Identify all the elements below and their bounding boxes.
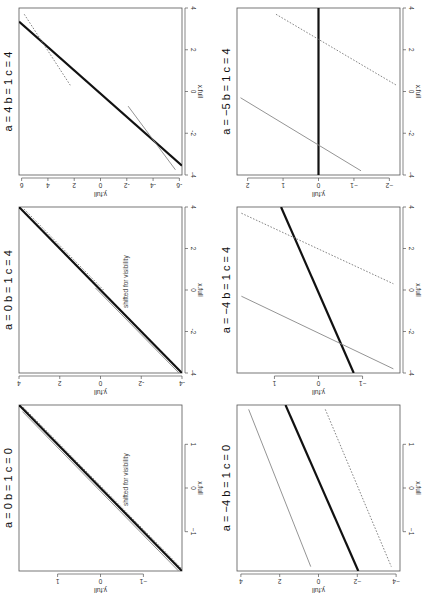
y-tick-label: 1 xyxy=(272,380,276,387)
x-tick-label: 2 xyxy=(408,247,415,251)
x-axis-label: x.full xyxy=(415,481,422,495)
series-line-thin xyxy=(128,106,175,170)
x-tick-label: -4 xyxy=(408,172,415,178)
x-tick-label: -2 xyxy=(408,329,415,335)
y-axis-label: y.full xyxy=(94,388,107,396)
series-line-thick xyxy=(19,207,182,373)
x-axis-label: x.full xyxy=(415,85,422,99)
series-line-dotted xyxy=(276,14,396,85)
x-axis-label: x.full xyxy=(415,283,422,297)
y-axis-label: y.full xyxy=(94,586,107,594)
y-tick-label: 2 xyxy=(58,380,62,387)
series-line-thin xyxy=(241,98,361,171)
x-tick-label: 0 xyxy=(190,288,197,292)
x-tick-label: -4 xyxy=(190,172,197,178)
x-tick-label: -2 xyxy=(190,130,197,136)
x-tick-label: −1 xyxy=(190,528,197,536)
x-tick-label: -4 xyxy=(190,370,197,376)
x-tick-label: -2 xyxy=(190,329,197,335)
y-tick-label: 0 xyxy=(316,182,320,189)
panel-6: −4−2024y.full−101x.fulla = −4 b = 1 c = … xyxy=(220,405,422,594)
x-axis-label: x.full xyxy=(197,481,204,495)
series-line-thick xyxy=(19,22,182,166)
y-tick-label: 0 xyxy=(316,380,320,387)
series-line-thin xyxy=(249,409,311,566)
y-tick-label: 4 xyxy=(17,380,21,387)
y-axis-label: y.full xyxy=(312,190,325,198)
y-axis-label: y.full xyxy=(312,388,325,396)
y-tick-label: 4 xyxy=(46,182,50,189)
x-axis-label: x.full xyxy=(197,85,204,99)
x-tick-label: 2 xyxy=(408,48,415,52)
x-tick-label: 0 xyxy=(408,90,415,94)
y-tick-label: −1 xyxy=(358,380,366,387)
x-tick-label: 1 xyxy=(408,443,415,447)
y-tick-label: -4 xyxy=(150,182,156,189)
y-tick-label: -2 xyxy=(124,182,130,189)
series-line-thick xyxy=(19,405,182,571)
x-tick-label: 2 xyxy=(190,247,197,251)
x-tick-label: 2 xyxy=(190,48,197,52)
x-tick-label: 0 xyxy=(408,288,415,292)
x-tick-label: −1 xyxy=(408,528,415,536)
series-line-thin xyxy=(241,296,393,369)
y-tick-label: 2 xyxy=(245,182,249,189)
y-tick-label: −2 xyxy=(353,578,361,585)
x-tick-label: 0 xyxy=(190,486,197,490)
y-axis-label: y.full xyxy=(312,586,325,594)
x-axis-label: x.full xyxy=(197,283,204,297)
series-group xyxy=(19,14,182,170)
series-line-dotted xyxy=(24,14,70,85)
y-tick-label: 4 xyxy=(239,578,243,585)
series-group xyxy=(19,405,182,571)
x-tick-label: -4 xyxy=(408,370,415,376)
series-line-thick xyxy=(281,207,354,373)
series-line-thin xyxy=(95,288,179,373)
series-line-dotted xyxy=(241,213,393,284)
annotation-shifted: shifted for visibility xyxy=(122,453,130,506)
y-tick-label: 1 xyxy=(55,578,59,585)
y-tick-label: −1 xyxy=(139,578,147,585)
panel-title: a = 0 b = 1 c = 0 xyxy=(2,448,14,528)
y-tick-label: 2 xyxy=(72,182,76,189)
series-line-dotted xyxy=(24,209,103,290)
panel-title: a = −5 b = 1 c = 4 xyxy=(220,48,232,134)
plot-box xyxy=(19,8,182,175)
panel-title: a = −4 b = 1 c = 4 xyxy=(220,247,232,333)
y-tick-label: 0 xyxy=(98,578,102,585)
y-tick-label: 1 xyxy=(281,182,285,189)
x-tick-label: 4 xyxy=(408,205,415,209)
y-tick-label: 0 xyxy=(98,380,102,387)
panel-1: -6-4-20246y.full-4-2024x.fulla = 4 b = 1… xyxy=(2,6,204,198)
series-line-thin xyxy=(22,412,178,571)
x-tick-label: 4 xyxy=(190,6,197,10)
plot-box xyxy=(237,405,400,571)
y-tick-label: 0 xyxy=(98,182,102,189)
panel-5: −101y.full-4-2024x.fulla = −4 b = 1 c = … xyxy=(220,205,422,396)
y-tick-label: −1 xyxy=(350,182,358,189)
series-group xyxy=(249,405,392,571)
y-axis-label: y.full xyxy=(94,190,107,198)
y-tick-label: 2 xyxy=(278,578,282,585)
x-tick-label: 0 xyxy=(408,486,415,490)
y-tick-label: −2 xyxy=(385,182,393,189)
annotation-shifted: shifted for visibility xyxy=(122,255,130,308)
panel-title: a = 0 b = 1 c = 4 xyxy=(2,250,14,330)
panel-title: a = −4 b = 1 c = 0 xyxy=(220,445,232,531)
y-tick-label: 6 xyxy=(19,182,23,189)
series-line-thick xyxy=(286,405,359,571)
series-group xyxy=(19,207,182,373)
panel-3: −101y.full−101x.fulla = 0 b = 1 c = 0shi… xyxy=(2,405,204,594)
figure-canvas: -6-4-20246y.full-4-2024x.fulla = 4 b = 1… xyxy=(0,0,425,602)
series-group xyxy=(241,8,397,175)
series-line-dotted xyxy=(23,407,182,569)
y-tick-label: 0 xyxy=(316,578,320,585)
series-group xyxy=(241,207,393,373)
series-line-dotted xyxy=(325,409,391,566)
y-tick-label: −4 xyxy=(392,578,400,585)
panel-4: −2−1012y.full-4-2024x.fulla = −5 b = 1 c… xyxy=(220,6,422,198)
y-tick-label: -6 xyxy=(176,182,182,189)
x-tick-label: 4 xyxy=(190,205,197,209)
y-tick-label: -4 xyxy=(179,380,185,387)
panel-title: a = 4 b = 1 c = 4 xyxy=(2,52,14,132)
